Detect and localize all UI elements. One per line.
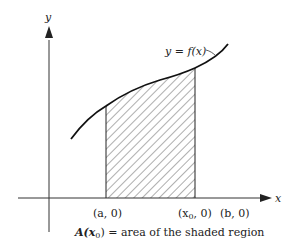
y-axis (45, 26, 53, 232)
x-axis-label: x (275, 192, 282, 205)
caption: A(x0) = area of the shaded region (74, 226, 264, 240)
point-b-label: (b, 0) (220, 207, 250, 220)
curve-label-pointer (206, 50, 216, 56)
curve-label: y = f(x) (164, 45, 206, 58)
y-axis-arrow-icon (45, 26, 53, 38)
y-axis-label: y (44, 11, 52, 24)
x-axis-arrow-icon (260, 194, 272, 202)
shaded-region (106, 60, 195, 198)
point-a-label: (a, 0) (93, 207, 122, 220)
point-x0-label: (x0, 0) (178, 207, 212, 221)
area-under-curve-diagram: y x y = f(x) (a, 0) (x0, 0) (b, 0) A(x0)… (0, 0, 293, 246)
